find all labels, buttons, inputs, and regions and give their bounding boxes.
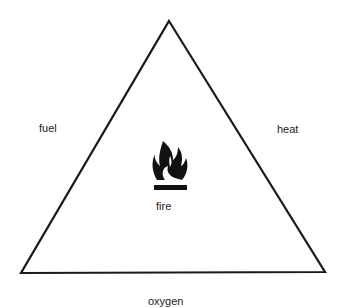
fire-label: fire: [156, 200, 171, 212]
triangle-outline: [21, 21, 325, 273]
heat-label: heat: [277, 123, 298, 135]
flame-icon: [153, 141, 188, 190]
oxygen-label: oxygen: [148, 295, 183, 307]
fuel-label: fuel: [39, 122, 57, 134]
fire-triangle: [0, 0, 347, 308]
